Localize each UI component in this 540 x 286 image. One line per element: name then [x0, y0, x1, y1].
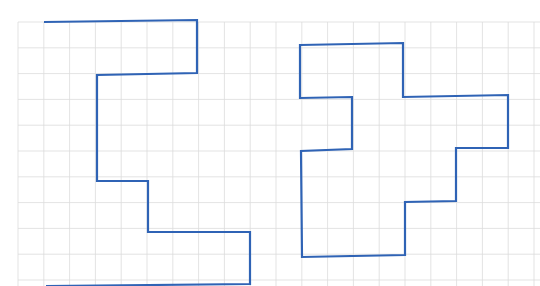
right-shape [300, 43, 508, 257]
grid-diagram [0, 0, 540, 286]
